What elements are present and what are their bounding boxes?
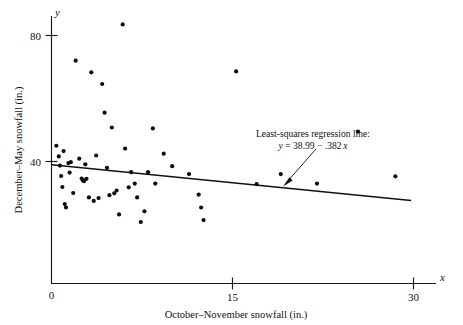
data-point — [234, 69, 238, 73]
y-tick-label-80: 80 — [30, 30, 42, 42]
data-point — [170, 164, 174, 168]
data-point — [151, 126, 155, 130]
data-point — [57, 154, 61, 158]
data-point — [74, 59, 78, 63]
data-point — [315, 181, 319, 185]
data-point — [59, 174, 63, 178]
data-point — [153, 181, 157, 185]
data-point — [279, 172, 283, 176]
data-point — [107, 193, 111, 197]
data-point — [69, 160, 73, 164]
axes-group — [51, 16, 436, 284]
data-point — [142, 209, 146, 213]
data-point — [199, 205, 203, 209]
data-point — [61, 149, 65, 153]
data-point — [100, 82, 104, 86]
data-point — [54, 144, 58, 148]
x-tick-label-15: 15 — [227, 291, 239, 303]
equation-body: = 38.99 − .382 — [283, 140, 342, 151]
data-point — [84, 177, 88, 181]
data-point — [201, 218, 205, 222]
data-point — [393, 174, 397, 178]
y-axis-variable-label: y — [54, 6, 60, 18]
data-point — [96, 196, 100, 200]
data-point — [187, 172, 191, 176]
y-tick-label-40: 40 — [30, 156, 42, 168]
data-point — [162, 152, 166, 156]
data-point — [123, 146, 127, 150]
leader-line — [287, 149, 317, 183]
data-point — [127, 185, 131, 189]
annotation-title: Least-squares regression line: — [256, 128, 370, 139]
leader-arrowhead-icon — [283, 177, 293, 186]
data-point — [68, 170, 72, 174]
data-point — [197, 192, 201, 196]
y-axis-title: December–May snowfall (in.) — [13, 86, 25, 213]
data-point — [117, 212, 121, 216]
annotation-leader — [283, 149, 316, 187]
data-point — [71, 191, 75, 195]
data-point — [89, 70, 93, 74]
data-point — [139, 220, 143, 224]
data-point — [87, 195, 91, 199]
data-point — [94, 153, 98, 157]
data-point — [60, 185, 64, 189]
x-tick-group: 0 15 30 — [49, 278, 420, 304]
data-point — [135, 195, 139, 199]
x-axis-title: October–November snowfall (in.) — [165, 309, 308, 321]
data-point — [83, 162, 87, 166]
data-point — [102, 111, 106, 115]
annotation-equation: y = 38.99 − .382x — [278, 140, 349, 151]
data-point — [110, 125, 114, 129]
x-tick-label-0: 0 — [49, 289, 55, 301]
data-point — [121, 22, 125, 26]
equation-x-symbol: x — [342, 140, 348, 151]
chart-canvas: y x 80 40 0 15 30 October–November snowf… — [0, 0, 463, 325]
scatter-plot-figure: y x 80 40 0 15 30 October–November snowf… — [0, 0, 463, 325]
data-point — [105, 166, 109, 170]
data-point — [92, 199, 96, 203]
data-point — [64, 205, 68, 209]
data-point — [133, 181, 137, 185]
data-point — [115, 188, 119, 192]
data-point — [77, 157, 81, 161]
regression-line — [52, 165, 412, 201]
y-tick-group: 80 40 — [30, 30, 58, 168]
x-axis-variable-label: x — [439, 271, 445, 283]
x-tick-label-30: 30 — [408, 291, 420, 303]
